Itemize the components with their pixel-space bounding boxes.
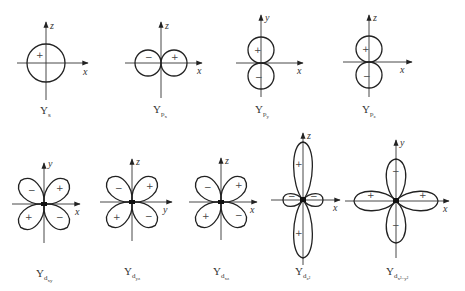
panel-py: y x + − Ypy <box>236 12 303 119</box>
sign: − <box>310 191 318 201</box>
sign: + <box>202 211 210 221</box>
axis-label-h: x <box>82 66 88 77</box>
sign: − <box>204 182 212 192</box>
sign-plus: + <box>36 50 44 60</box>
axis-label-h: x <box>399 64 405 75</box>
sign: − <box>235 210 243 220</box>
sign: − <box>56 212 64 222</box>
orbital-diagram: z x + Ys z x − + Ypx y x + − Ypy z x + − <box>0 0 465 291</box>
sign: + <box>235 180 243 190</box>
panel-pz: z x + − Ypz <box>343 12 412 119</box>
sign: + <box>419 190 427 200</box>
sign: − <box>392 220 400 230</box>
axis-label-h: x <box>249 204 255 215</box>
panel-s: z x + Ys <box>17 20 88 119</box>
axis-label-v: y <box>399 137 405 148</box>
panel-dz2: z x + − − + Ydz² <box>271 130 340 281</box>
axis-label-v: z <box>306 130 311 141</box>
axis-label-h: x <box>332 202 338 213</box>
sign-minus: − <box>363 71 371 81</box>
axis-label-v: z <box>164 20 169 31</box>
axis-label-h: x <box>74 206 80 217</box>
sign: − <box>28 185 36 195</box>
panel-dx2y2: y x − + + − Ydx²−y² <box>345 137 449 281</box>
panel-dyz: z y − + + − Ydyz <box>100 156 172 281</box>
sign: + <box>25 212 33 222</box>
axis-label-h: x <box>196 65 202 76</box>
axis-label-v: y <box>264 12 270 23</box>
orbital-label: Ypz <box>362 103 376 119</box>
sign: + <box>367 190 375 200</box>
sign-plus: + <box>254 45 262 55</box>
axis-label-h: x <box>442 203 448 214</box>
orbital-label: Ydz² <box>295 265 311 281</box>
panel-px: z x − + Ypx <box>125 20 202 119</box>
axis-label-h: x <box>296 65 302 76</box>
nucleus <box>218 200 224 204</box>
sign: − <box>288 191 296 201</box>
nucleus <box>300 197 306 202</box>
orbital-label: Ydyz <box>124 265 141 281</box>
sign-plus: + <box>171 52 179 62</box>
orbital-label: Ypx <box>153 103 167 119</box>
sign-minus: − <box>145 52 153 62</box>
panel-dxy: y x − + + − Ydxy <box>12 158 80 283</box>
axis-label-v: z <box>224 155 229 166</box>
orbital-label: Ydx²−y² <box>386 265 409 281</box>
sign: − <box>145 211 153 221</box>
nucleus <box>129 200 135 204</box>
sign: + <box>295 159 303 169</box>
nucleus <box>393 198 399 203</box>
sign: + <box>146 181 154 191</box>
sign: + <box>295 228 303 238</box>
sign-plus: + <box>362 44 370 54</box>
axis-label-v: z <box>372 12 377 23</box>
orbital-label: Ydxy <box>36 267 53 283</box>
axis-label-v: y <box>47 158 53 169</box>
sign: + <box>56 183 64 193</box>
orbital-label: Ydxz <box>213 265 230 281</box>
nucleus <box>41 202 47 206</box>
sign-minus: − <box>255 72 263 82</box>
axis-label-v: z <box>49 20 54 31</box>
sign: + <box>113 212 121 222</box>
sign: − <box>392 166 400 176</box>
panel-dxz: z x − + + − Ydxz <box>189 155 257 281</box>
axis-label-h: y <box>162 204 168 215</box>
sign: − <box>115 183 123 193</box>
orbital-label: Ys <box>40 104 51 119</box>
axis-label-v: z <box>135 156 140 167</box>
orbital-label: Ypy <box>255 103 269 119</box>
